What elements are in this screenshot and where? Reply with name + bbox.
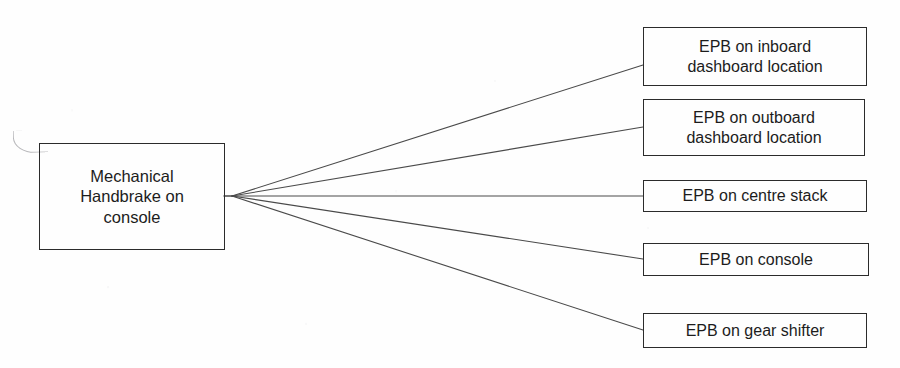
connector-line-3 bbox=[232, 196, 643, 259]
target-node-label: EPB on gear shifter bbox=[680, 321, 831, 341]
target-node-epb-inboard-dashboard[interactable]: EPB on inboard dashboard location bbox=[643, 27, 867, 86]
source-node-mechanical-handbrake[interactable]: Mechanical Handbrake on console bbox=[39, 143, 225, 250]
target-node-label: EPB on centre stack bbox=[677, 186, 834, 206]
target-node-label: EPB on inboard dashboard location bbox=[681, 37, 828, 76]
source-node-label: Mechanical Handbrake on console bbox=[74, 166, 190, 226]
target-node-epb-gear-shifter[interactable]: EPB on gear shifter bbox=[643, 313, 867, 348]
target-node-label: EPB on outboard dashboard location bbox=[680, 108, 827, 147]
connector-line-0 bbox=[232, 65, 643, 196]
target-node-epb-console[interactable]: EPB on console bbox=[643, 243, 869, 276]
target-node-label: EPB on console bbox=[693, 250, 819, 270]
connector-line-4 bbox=[232, 196, 643, 330]
connector-line-1 bbox=[232, 127, 643, 196]
target-node-epb-centre-stack[interactable]: EPB on centre stack bbox=[643, 180, 867, 212]
target-node-epb-outboard-dashboard[interactable]: EPB on outboard dashboard location bbox=[643, 99, 865, 156]
diagram-canvas: Mechanical Handbrake on console EPB on i… bbox=[0, 0, 900, 368]
